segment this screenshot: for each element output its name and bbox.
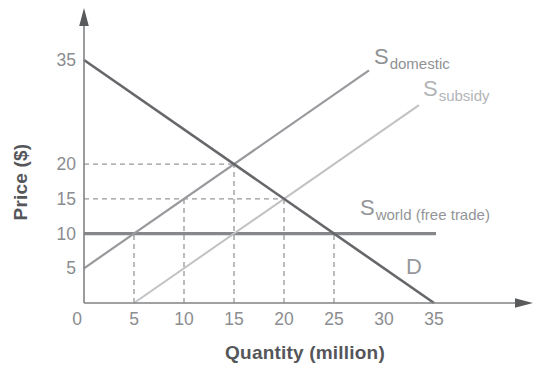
curve-label-main: S xyxy=(360,195,375,220)
supply-demand-subsidy-chart: 05101520253035510152035 Price ($) Quanti… xyxy=(0,0,547,389)
curve-label-demand: D xyxy=(406,254,423,280)
curve-label-subscript: subsidy xyxy=(439,87,490,104)
y-axis-title: Price ($) xyxy=(10,103,32,261)
y-tick-label: 5 xyxy=(66,258,76,278)
curve-label-subscript: world (free trade) xyxy=(376,206,490,223)
x-tick-label: 30 xyxy=(374,309,394,329)
x-tick-label: 25 xyxy=(324,309,343,329)
curve-label-subscript: domestic xyxy=(390,55,450,72)
curve-demand xyxy=(84,60,434,303)
curve-label-main: S xyxy=(423,76,438,101)
x-tick-label: 0 xyxy=(72,309,82,329)
y-axis-arrow-icon xyxy=(79,8,89,26)
x-tick-label: 10 xyxy=(174,309,194,329)
x-tick-label: 5 xyxy=(129,309,139,329)
curve-label-main: S xyxy=(374,44,389,69)
x-axis-title: Quantity (million) xyxy=(130,342,480,364)
curve-label-main: D xyxy=(406,254,422,279)
x-tick-label: 20 xyxy=(274,309,294,329)
x-tick-label: 15 xyxy=(224,309,243,329)
y-tick-label: 35 xyxy=(57,50,76,70)
x-tick-label: 35 xyxy=(424,309,443,329)
y-tick-label: 15 xyxy=(57,189,76,209)
x-axis-arrow-icon xyxy=(515,298,533,308)
curve-label-supply-world: Sworld (free trade) xyxy=(360,195,490,221)
y-tick-label: 20 xyxy=(57,154,77,174)
curve-label-supply-domestic: Sdomestic xyxy=(374,44,450,70)
curve-label-supply-subsidy: Ssubsidy xyxy=(423,76,490,102)
y-tick-label: 10 xyxy=(57,224,77,244)
